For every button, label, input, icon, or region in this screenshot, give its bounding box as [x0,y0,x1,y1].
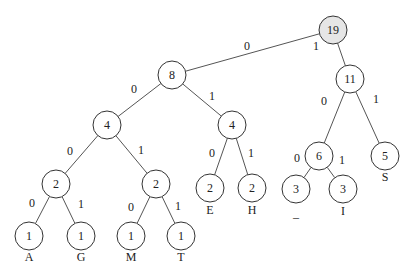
node-weight: 6 [316,149,322,163]
edge-bit-label: 0 [67,144,73,158]
edge-bit-label: 0 [209,146,215,160]
node-weight: 3 [340,182,346,196]
node-weight: 2 [249,181,255,195]
tree-node: 1 [67,222,95,250]
node-weight: 4 [229,118,235,132]
edge-bit-label: 0 [128,200,134,214]
edge-bit-label: 1 [313,39,319,53]
edge-bit-label: 1 [373,92,379,106]
edge-bit-label: 0 [131,82,137,96]
node-weight: 1 [26,229,32,243]
leaf-symbol-label: H [248,203,257,217]
tree-node: 1 [167,222,195,250]
tree-node: 2 [42,170,70,198]
leaf-symbol-label: A [25,250,34,264]
node-weight: 8 [169,68,175,82]
tree-edge [118,84,161,117]
leaf-symbol-label: _ [292,206,300,220]
edge-bit-label: 1 [175,199,181,213]
tree-edge [137,197,150,224]
tree-node: 3 [282,175,310,203]
tree-node: 4 [93,111,121,139]
node-weight: 5 [382,149,388,163]
tree-edge [185,34,319,71]
tree-node: 4 [218,111,246,139]
node-weight: 1 [178,229,184,243]
edge-bit-label: 1 [138,143,144,157]
node-weight: 2 [207,181,213,195]
node-weight: 11 [344,72,356,86]
edge-bit-label: 1 [78,197,84,211]
tree-edge [215,138,228,175]
tree-node: 2 [142,170,170,198]
node-weight: 2 [153,177,159,191]
edge-bit-label: 0 [321,94,327,108]
tree-edge [62,197,75,224]
leaf-symbol-label: M [126,250,137,264]
tree-edge [338,43,346,66]
edge-bit-label: 0 [244,39,250,53]
leaf-symbol-label: S [382,170,389,184]
node-weight: 2 [53,177,59,191]
root-node: 19 [319,16,347,44]
leaf-symbol-label: G [77,250,86,264]
tree-node: 1 [117,222,145,250]
tree-node: 8 [158,61,186,89]
tree-edge [35,196,49,223]
tree-edge [304,167,311,177]
leaf-symbol-label: I [341,204,345,218]
leaf-symbol-label: E [206,203,213,217]
tree-node: 6 [305,142,333,170]
edge-bit-label: 1 [248,146,254,160]
node-weight: 4 [104,118,110,132]
node-weight: 1 [128,229,134,243]
tree-node: 3 [329,175,357,203]
tree-edge [327,167,335,177]
tree-node: 5 [371,142,399,170]
tree-node: 11 [336,65,364,93]
tree-node: 2 [196,174,224,202]
huffman-tree-diagram: 0101010101010101 1981144652222331111 AGM… [0,0,415,275]
tree-edge [183,84,221,116]
node-weight: 1 [78,229,84,243]
edge-bit-label: 1 [339,153,345,167]
tree-edge [162,197,175,224]
node-weight: 3 [293,182,299,196]
tree-edge [324,92,345,143]
tree-node: 2 [238,174,266,202]
edge-bit-label: 0 [29,196,35,210]
node-weight: 19 [327,23,339,37]
tree-edge [236,138,248,174]
tree-node: 1 [15,222,43,250]
edge-bit-label: 1 [209,89,215,103]
leaf-symbol-label: T [177,250,185,264]
edge-bit-label: 0 [294,151,300,165]
